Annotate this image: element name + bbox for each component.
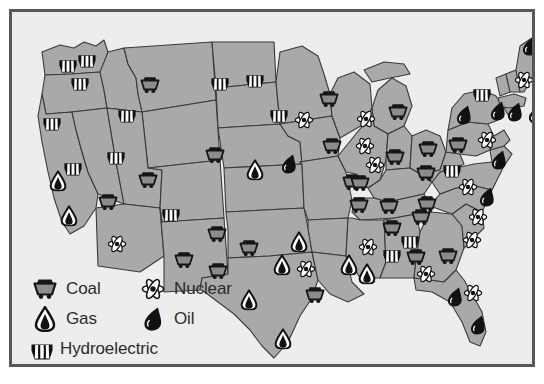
map-marker-coal	[321, 137, 342, 155]
map-marker-nuclear	[468, 207, 488, 227]
legend: Coal Nuclear Gas Oil Hydroelectric	[30, 274, 245, 364]
map-marker-nuclear	[416, 264, 436, 284]
map-marker-coal	[238, 239, 259, 257]
nuclear-icon	[138, 275, 168, 303]
map-marker-coal	[173, 251, 194, 269]
map-marker-hydroelectric	[70, 72, 90, 92]
map-marker-gas	[273, 254, 291, 275]
map-marker-nuclear	[514, 70, 532, 90]
map-marker-coal	[415, 164, 436, 182]
map-marker-coal	[384, 148, 405, 166]
map-marker-oil	[456, 105, 472, 125]
map-marker-coal	[137, 171, 158, 189]
map-marker-hydroelectric	[77, 49, 97, 69]
legend-item-nuclear: Nuclear	[138, 275, 232, 303]
map-marker-coal	[349, 174, 370, 192]
map-marker-hydroelectric	[442, 159, 462, 179]
map-marker-coal	[97, 193, 118, 211]
map-marker-hydroelectric	[210, 72, 230, 92]
map-marker-oil	[479, 187, 495, 207]
map-marker-coal	[318, 90, 339, 108]
map-marker-nuclear	[294, 110, 314, 130]
map-marker-hydroelectric	[269, 104, 289, 124]
map-marker-nuclear	[356, 109, 376, 129]
map-marker-nuclear	[358, 237, 378, 257]
legend-label: Coal	[66, 279, 101, 299]
map-marker-coal	[417, 140, 438, 158]
map-marker-hydroelectric	[161, 203, 181, 223]
legend-item-hydroelectric: Hydroelectric	[30, 335, 138, 363]
map-marker-oil	[507, 102, 523, 122]
map-marker-hydroelectric	[472, 83, 492, 103]
map-marker-coal	[206, 225, 227, 243]
legend-item-coal: Coal	[30, 275, 138, 303]
energy-map-page: Coal Nuclear Gas Oil Hydroelectric	[0, 0, 544, 384]
legend-row: Gas Oil	[30, 304, 245, 334]
legend-label: Hydroelectric	[60, 339, 158, 359]
map-marker-nuclear	[463, 283, 483, 303]
map-marker-gas	[246, 159, 264, 180]
map-marker-nuclear	[462, 230, 482, 250]
gas-icon	[30, 305, 60, 333]
map-marker-hydroelectric	[117, 104, 137, 124]
legend-item-gas: Gas	[30, 305, 138, 333]
map-marker-coal	[304, 286, 325, 304]
legend-label: Nuclear	[174, 279, 232, 299]
map-marker-hydroelectric	[42, 112, 62, 132]
map-marker-oil	[491, 150, 507, 170]
map-marker-nuclear	[355, 136, 375, 156]
map-marker-coal	[447, 136, 468, 154]
map-canvas: Coal Nuclear Gas Oil Hydroelectric	[12, 12, 532, 364]
map-marker-nuclear	[477, 130, 497, 150]
map-marker-hydroelectric	[106, 146, 126, 166]
hydroelectric-icon	[30, 335, 54, 363]
map-marker-nuclear	[107, 234, 127, 254]
map-frame: Coal Nuclear Gas Oil Hydroelectric	[9, 9, 535, 367]
map-marker-nuclear	[458, 177, 478, 197]
map-marker-gas	[290, 231, 308, 252]
map-marker-coal	[348, 196, 369, 214]
map-marker-coal	[437, 247, 458, 265]
map-marker-coal	[204, 146, 225, 164]
map-marker-nuclear	[365, 155, 385, 175]
legend-row: Hydroelectric	[30, 334, 245, 364]
oil-icon	[138, 305, 168, 333]
coal-icon	[30, 275, 60, 303]
map-marker-gas	[60, 205, 78, 226]
map-marker-oil	[490, 101, 506, 121]
map-marker-oil	[470, 315, 486, 335]
legend-label: Gas	[66, 309, 97, 329]
map-marker-coal	[378, 197, 399, 215]
map-marker-hydroelectric	[245, 69, 265, 89]
map-marker-hydroelectric	[63, 157, 83, 177]
map-marker-oil	[528, 104, 532, 124]
map-marker-oil	[522, 36, 532, 56]
legend-label: Oil	[174, 309, 194, 329]
map-marker-coal	[410, 208, 431, 226]
map-marker-oil	[447, 287, 463, 307]
map-marker-oil	[281, 154, 297, 174]
map-marker-hydroelectric	[382, 244, 402, 264]
map-marker-gas	[274, 328, 292, 349]
map-marker-gas	[358, 263, 376, 284]
legend-row: Coal Nuclear	[30, 274, 245, 304]
map-marker-hydroelectric	[58, 54, 78, 74]
map-marker-hydroelectric	[400, 230, 420, 250]
map-marker-gas	[340, 254, 358, 275]
map-marker-coal	[387, 103, 408, 121]
legend-item-oil: Oil	[138, 305, 194, 333]
map-marker-nuclear	[296, 259, 316, 279]
map-marker-coal	[139, 76, 160, 94]
